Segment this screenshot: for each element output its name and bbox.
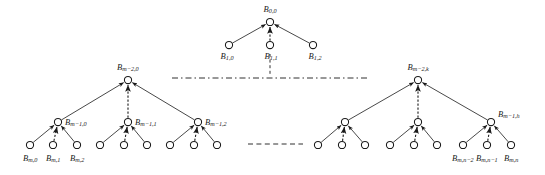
tree-node-level1-0 (225, 41, 232, 48)
tree-node-level1-1 (266, 41, 273, 48)
tree-node-right-leaf-3 (386, 141, 393, 148)
edge-right-leaf-0-to-mid-0 (321, 125, 341, 142)
diagram-edges-layer (0, 0, 545, 175)
edge-left-leaf-2-to-mid-0 (61, 126, 74, 142)
node-label-left-leaf-0: Bm,0 (23, 154, 37, 164)
edge-right-leaf-8-to-mid-2 (494, 126, 508, 142)
edge-right-mid-2-to-right-root (422, 82, 487, 119)
label-subscript: m−2,k (413, 65, 429, 72)
node-group (26, 18, 514, 148)
tree-node-right-mid-2 (487, 118, 494, 125)
edge-left-leaf-3-to-mid-1 (103, 125, 124, 142)
tree-node-left-subtree-root (124, 76, 131, 83)
edge-right-mid-0-to-right-root (349, 82, 414, 119)
node-label-left-leaf-1: Bm,1 (46, 154, 60, 164)
tree-node-left-mid-0 (54, 118, 61, 125)
tree-node-right-leaf-2 (361, 141, 368, 148)
edge-left-leaf-0-to-mid-0 (33, 125, 54, 142)
label-subscript: m−1,2 (210, 120, 226, 127)
node-label-right-mid-h: Bm−1,h (498, 110, 520, 120)
edge-left-leaf-6-to-mid-2 (173, 125, 194, 142)
label-subscript: 1,0 (226, 54, 234, 61)
node-label-right-leaf-2: Bm,n (504, 154, 518, 164)
tree-node-left-leaf-0 (26, 141, 33, 148)
node-label-left-leaf-2: Bm,2 (70, 154, 84, 164)
edge-left-mid-2-to-left-root (132, 83, 194, 120)
tree-node-right-subtree-root (414, 76, 421, 83)
label-subscript: m,1 (51, 156, 60, 163)
node-label-b1-1: B1,1 (265, 52, 278, 62)
label-subscript: 1,1 (270, 54, 278, 61)
label-subscript: m,n−1 (481, 156, 497, 163)
tree-node-left-mid-2 (194, 118, 201, 125)
edge-left-leaf-5-to-mid-1 (131, 126, 144, 142)
tree-node-right-leaf-4 (410, 141, 417, 148)
tree-node-right-leaf-5 (433, 141, 440, 148)
node-label-root: B0,0 (264, 5, 277, 15)
edge-left-leaf-7-to-mid-2 (195, 127, 197, 141)
edge-right-leaf-3-to-mid-1 (393, 125, 414, 142)
edge-right-leaf-2-to-mid-0 (348, 126, 362, 142)
node-label-b1-2: B1,2 (309, 52, 322, 62)
tree-node-left-leaf-8 (213, 141, 220, 148)
tree-node-left-leaf-6 (166, 141, 173, 148)
node-label-left-subtree-root: Bm−2,0 (117, 63, 139, 73)
tree-node-right-leaf-0 (314, 141, 321, 148)
node-label-b1-0: B1,0 (221, 52, 234, 62)
edge-right-leaf-4-to-mid-1 (415, 127, 417, 141)
label-subscript: m,n (509, 156, 518, 163)
tree-node-left-leaf-2 (73, 141, 80, 148)
tree-node-level1-2 (309, 41, 316, 48)
label-subscript: m−1,0 (70, 120, 86, 127)
tree-node-right-leaf-6 (459, 141, 466, 148)
tree-node-right-mid-0 (341, 118, 348, 125)
edge-left-leaf-1-to-mid-0 (54, 127, 57, 141)
edge-left-leaf-8-to-mid-2 (201, 126, 214, 142)
label-subscript: 0,0 (269, 7, 277, 14)
separator-group (172, 54, 370, 144)
label-subscript: m,2 (75, 156, 84, 163)
node-label-left-mid-0: Bm−1,0 (65, 118, 87, 128)
tree-node-left-leaf-7 (190, 141, 197, 148)
label-subscript: 1,2 (314, 54, 322, 61)
node-label-left-mid-2: Bm−1,2 (205, 118, 227, 128)
tree-node-right-leaf-8 (507, 141, 514, 148)
edge-left-leaf-4-to-mid-1 (125, 127, 127, 141)
edge-right-leaf-1-to-mid-0 (343, 127, 345, 141)
edge-right-leaf-6-to-mid-2 (466, 125, 487, 142)
label-subscript: m,0 (28, 156, 37, 163)
label-subscript: m,n−2 (457, 156, 473, 163)
tree-diagram-figure: B0,0 B1,0 B1,1 B1,2 Bm−2,0 Bm−1,0 Bm−1,1… (0, 0, 545, 175)
label-subscript: m−2,0 (122, 65, 138, 72)
edge-level1-2-to-root (274, 24, 309, 43)
node-label-right-leaf-1: Bm,n−1 (476, 154, 498, 164)
edge-right-leaf-5-to-mid-1 (421, 126, 434, 142)
edge-left-mid-0-to-left-root (62, 83, 124, 120)
node-label-right-subtree-root: Bm−2,k (408, 63, 429, 73)
label-subscript: m−1,1 (140, 120, 156, 127)
label-subscript: m−1,h (503, 112, 519, 119)
tree-node-left-leaf-3 (96, 141, 103, 148)
tree-node-right-leaf-1 (338, 141, 345, 148)
node-label-left-mid-1: Bm−1,1 (135, 118, 157, 128)
tree-node-right-mid-1 (414, 118, 421, 125)
node-label-right-leaf-0: Bm,n−2 (452, 154, 474, 164)
tree-node-left-leaf-5 (143, 141, 150, 148)
tree-node-root (266, 18, 273, 25)
tree-node-left-leaf-1 (49, 141, 56, 148)
tree-node-left-mid-1 (124, 118, 131, 125)
edge-level1-0-to-root (233, 24, 266, 42)
tree-node-right-leaf-7 (483, 141, 490, 148)
tree-node-left-leaf-4 (120, 141, 127, 148)
edge-right-leaf-7-to-mid-2 (488, 127, 490, 141)
